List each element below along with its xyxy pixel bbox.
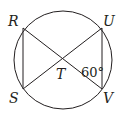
point-label-v: V (103, 90, 115, 106)
point-label-u: U (103, 13, 116, 29)
point-label-s: S (9, 90, 19, 106)
diagram-canvas: R U S V T 60° (0, 0, 125, 120)
point-label-r: R (7, 13, 19, 29)
circle (14, 11, 112, 109)
point-label-t: T (56, 66, 67, 82)
angle-label: 60° (81, 65, 104, 80)
